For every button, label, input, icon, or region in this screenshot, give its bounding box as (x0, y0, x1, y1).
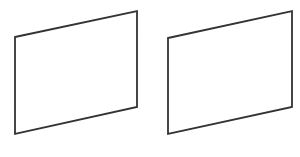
right-parallelogram (168, 11, 292, 134)
diagram-svg (0, 0, 300, 157)
diagram-canvas (0, 0, 300, 157)
left-parallelogram (15, 11, 137, 134)
